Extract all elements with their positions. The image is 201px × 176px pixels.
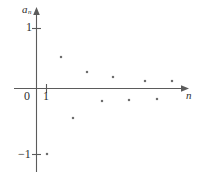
data-point xyxy=(156,98,158,100)
data-point xyxy=(112,76,114,78)
x-tick-label-one: 1 xyxy=(43,90,49,102)
data-point xyxy=(46,153,48,155)
data-point xyxy=(101,100,103,102)
y-tick-label-one: 1 xyxy=(26,21,32,33)
data-point xyxy=(128,99,130,101)
y-tick-label-negative-one: −1 xyxy=(18,148,31,160)
data-point xyxy=(144,80,146,82)
x-axis-title: n xyxy=(186,90,192,101)
y-axis-title-base: a xyxy=(22,3,28,15)
data-point xyxy=(72,117,74,119)
scatter-plot-figure: an n 1 −1 0 1 xyxy=(0,0,201,176)
y-axis-title: an xyxy=(22,4,32,16)
origin-label: 0 xyxy=(24,90,30,102)
data-point xyxy=(60,56,62,58)
data-point xyxy=(86,71,88,73)
y-axis xyxy=(32,7,41,172)
y-axis-arrow-icon xyxy=(33,7,40,15)
data-points-layer xyxy=(46,56,173,155)
data-point xyxy=(171,80,173,82)
y-axis-title-subscript: n xyxy=(28,8,32,16)
x-axis xyxy=(14,84,189,93)
